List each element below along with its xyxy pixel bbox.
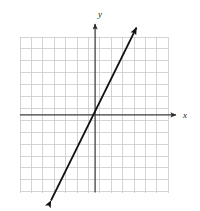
coordinate-graph-figure: y x <box>0 0 200 211</box>
graph-canvas: y x <box>0 0 200 211</box>
y-axis-label: y <box>97 9 102 19</box>
x-axis-label: x <box>182 110 187 120</box>
